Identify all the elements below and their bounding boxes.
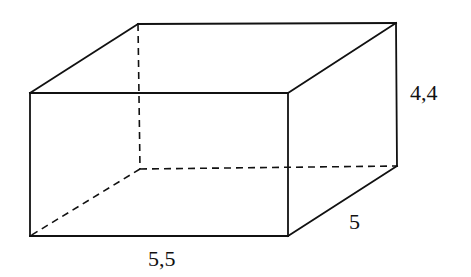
edge-back-right bbox=[396, 23, 397, 166]
height-label: 4,4 bbox=[410, 82, 438, 104]
width-label: 5,5 bbox=[148, 248, 176, 270]
hidden-edge-bottom-left-depth bbox=[30, 169, 140, 236]
edge-back-top bbox=[138, 23, 396, 24]
hidden-edges bbox=[30, 24, 397, 236]
hidden-edge-back-left-vertical bbox=[138, 24, 140, 169]
hidden-edge-back-bottom bbox=[140, 166, 397, 169]
edge-top-left-depth bbox=[30, 24, 138, 93]
prism-drawing bbox=[0, 0, 471, 277]
edge-bottom-right-depth bbox=[288, 166, 397, 236]
visible-edges bbox=[30, 23, 397, 236]
depth-label: 5 bbox=[349, 211, 360, 233]
prism-diagram: 4,4 5 5,5 bbox=[0, 0, 471, 277]
edge-top-right-depth bbox=[288, 23, 396, 93]
